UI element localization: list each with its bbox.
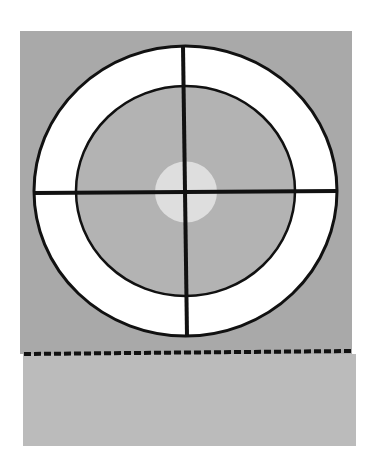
target-diagram [0, 0, 369, 466]
lower-gray-band [23, 354, 356, 446]
horizontal-crosshair-line [34, 191, 337, 193]
